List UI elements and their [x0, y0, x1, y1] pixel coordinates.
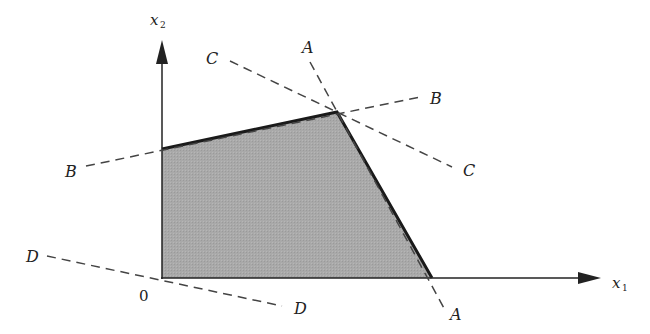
- x2-axis-subscript: 2: [160, 20, 166, 30]
- label-a-bottom: A: [448, 305, 462, 324]
- x2-axis-arrow-icon: [156, 40, 168, 64]
- origin-label: 0: [139, 287, 149, 305]
- diagram-canvas: x 2 x 1 0 A A B B C C D D: [0, 0, 650, 334]
- lp-diagram: x 2 x 1 0 A A B B C C D D: [0, 0, 650, 334]
- label-b-right: B: [429, 89, 442, 108]
- x2-axis-label: x: [150, 11, 159, 29]
- x1-axis-arrow-icon: [578, 272, 601, 284]
- label-d-right: D: [293, 299, 307, 318]
- label-c-bottom: C: [463, 161, 475, 180]
- label-a-top: A: [300, 38, 314, 57]
- feasible-region: [162, 112, 432, 278]
- x1-axis-subscript: 1: [622, 283, 628, 293]
- label-c-top: C: [206, 49, 218, 68]
- label-b-left: B: [64, 162, 77, 181]
- x1-axis-label: x: [612, 274, 621, 292]
- label-d-left: D: [25, 247, 39, 266]
